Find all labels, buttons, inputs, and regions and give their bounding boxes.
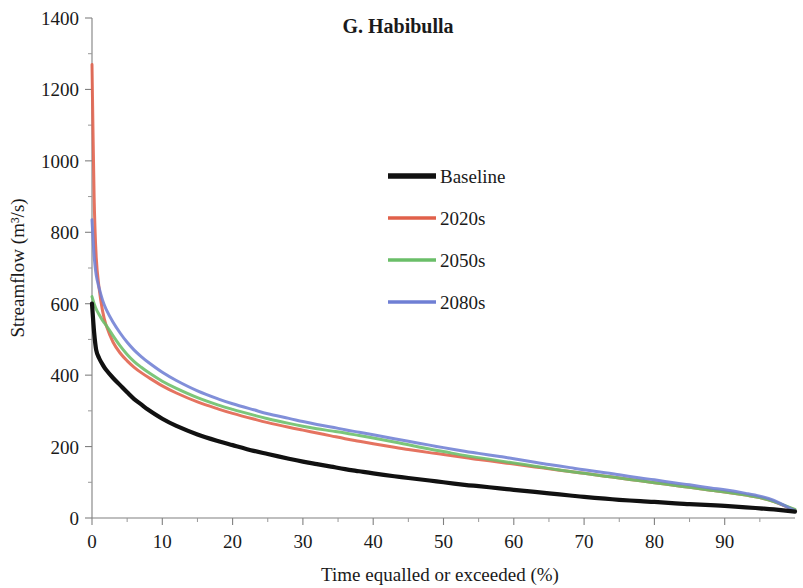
x-tick-label: 10 <box>153 531 172 552</box>
x-tick-label: 0 <box>87 531 97 552</box>
y-axis-tick-labels: 0200400600800100012001400 <box>41 8 79 529</box>
legend-item-baseline[interactable]: Baseline <box>388 166 505 187</box>
y-tick-label: 600 <box>51 294 80 315</box>
y-tick-label: 1000 <box>41 151 79 172</box>
y-axis: 0200400600800100012001400 <box>41 8 92 529</box>
x-tick-label: 20 <box>223 531 242 552</box>
y-tick-label: 1200 <box>41 79 79 100</box>
legend: Baseline2020s2050s2080s <box>388 166 505 313</box>
x-axis-tick-labels: 0102030405060708090 <box>87 531 734 552</box>
series-line-2020s <box>92 64 795 510</box>
legend-item-2050s[interactable]: 2050s <box>388 250 485 271</box>
x-axis: 0102030405060708090 <box>87 518 795 552</box>
legend-label: Baseline <box>440 166 505 187</box>
y-axis-title: Streamflow (m³/s) <box>7 198 29 337</box>
legend-item-2080s[interactable]: 2080s <box>388 292 485 313</box>
x-tick-label: 60 <box>504 531 523 552</box>
x-tick-label: 40 <box>364 531 383 552</box>
x-axis-ticks <box>92 518 760 525</box>
x-tick-label: 50 <box>434 531 453 552</box>
legend-label: 2050s <box>440 250 485 271</box>
legend-label: 2020s <box>440 208 485 229</box>
y-tick-label: 1400 <box>41 8 79 29</box>
y-tick-label: 400 <box>51 365 80 386</box>
legend-label: 2080s <box>440 292 485 313</box>
y-tick-label: 200 <box>51 437 80 458</box>
series-line-baseline <box>92 304 795 512</box>
x-tick-label: 70 <box>575 531 594 552</box>
chart-title: G. Habibulla <box>342 15 453 37</box>
legend-item-2020s[interactable]: 2020s <box>388 208 485 229</box>
y-tick-label: 800 <box>51 222 80 243</box>
x-tick-label: 90 <box>715 531 734 552</box>
flow-duration-curve-chart: G. Habibulla 0200400600800100012001400 0… <box>0 0 803 588</box>
x-axis-title: Time equalled or exceeded (%) <box>321 564 559 586</box>
chart-container: G. Habibulla 0200400600800100012001400 0… <box>0 0 803 588</box>
series-lines <box>92 64 795 511</box>
x-tick-label: 30 <box>293 531 312 552</box>
x-tick-label: 80 <box>645 531 664 552</box>
y-tick-label: 0 <box>70 508 80 529</box>
